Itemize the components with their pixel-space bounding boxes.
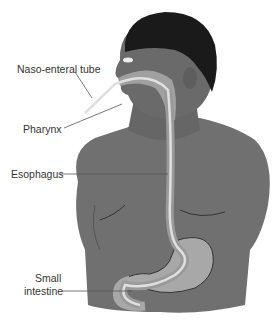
pharynx-leader [64, 104, 122, 128]
label-pharynx: Pharynx [23, 124, 62, 135]
label-small: Small [35, 273, 61, 284]
eye [123, 58, 133, 63]
ear [183, 67, 197, 89]
label-intestine: intestine [24, 286, 63, 297]
tube-leader [75, 72, 92, 98]
label-naso-enteral-tube: Naso-enteral tube [17, 64, 100, 75]
label-esophagus: Esophagus [11, 169, 64, 180]
